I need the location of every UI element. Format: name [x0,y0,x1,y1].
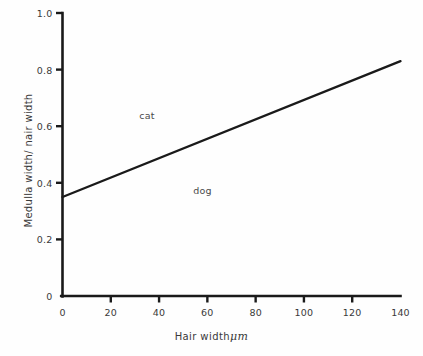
x-axis-title-text: Hair width [175,331,230,342]
x-tick-label: 140 [391,307,410,318]
x-tick-label: 20 [105,307,118,318]
x-tick-label: 40 [153,307,166,318]
plot-canvas [0,0,423,356]
x-tick-label: 100 [295,307,314,318]
data-series-group [63,61,401,197]
y-tick-label: 0.8 [37,64,53,75]
y-tick-label: 1.0 [37,8,53,19]
y-tick-label: 0 [46,291,52,302]
x-tick-label: 60 [201,307,214,318]
annotation-label-dog: dog [193,184,211,195]
x-tick-label: 80 [249,307,262,318]
y-axis-title: Medulla width/ nair width [23,71,34,251]
y-tick-label: 0.6 [37,121,53,132]
axes-group [61,13,400,297]
x-axis-unit: μm [230,330,248,343]
x-tick-label: 120 [343,307,362,318]
x-tick-label: 0 [59,307,65,318]
data-line [63,61,401,197]
annotation-label-cat: cat [139,109,154,120]
chart-figure: 00.20.40.60.81.0 020406080100120140 catd… [0,0,423,356]
y-tick-label: 0.2 [37,234,53,245]
x-axis-title: Hair widthμm [0,330,423,343]
y-tick-label: 0.4 [37,177,53,188]
